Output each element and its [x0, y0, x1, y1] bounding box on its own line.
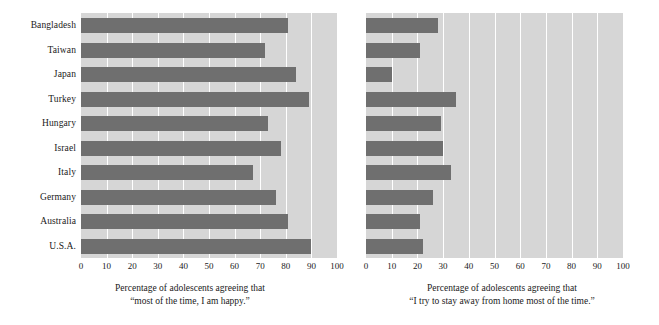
chart-panel-happy: BangladeshTaiwanJapanTurkeyHungaryIsrael… — [0, 0, 352, 325]
bar — [366, 165, 451, 180]
bar — [366, 92, 456, 107]
x-tick-label: 50 — [490, 261, 499, 272]
x-tick-label: 100 — [616, 261, 630, 272]
bar-row — [366, 62, 623, 87]
bar — [81, 165, 253, 180]
bar-row — [366, 38, 623, 63]
bar — [366, 239, 423, 254]
category-label: Germany — [0, 192, 76, 202]
plot-area-stay-away — [366, 13, 623, 258]
bar-row — [366, 234, 623, 259]
x-tick-label: 100 — [330, 261, 344, 272]
x-tick-label: 40 — [179, 261, 188, 272]
bar-chart-figure: BangladeshTaiwanJapanTurkeyHungaryIsrael… — [0, 0, 659, 325]
bar-row — [81, 136, 337, 161]
x-tick-label: 60 — [230, 261, 239, 272]
x-axis-label-stay-away: Percentage of adolescents agreeing that … — [352, 282, 652, 308]
category-label: Bangladesh — [0, 20, 76, 30]
bar — [81, 92, 309, 107]
category-axis-labels: BangladeshTaiwanJapanTurkeyHungaryIsrael… — [0, 13, 76, 258]
x-axis-label-stay-away-line1: Percentage of adolescents agreeing that — [427, 283, 577, 293]
chart-panel-stay-away: 0102030405060708090100 Percentage of ado… — [352, 0, 659, 325]
bar — [81, 239, 311, 254]
bar-row — [366, 160, 623, 185]
x-tick-label: 0 — [79, 261, 84, 272]
bar — [366, 43, 420, 58]
bars-stay-away — [366, 13, 623, 258]
bar-row — [81, 234, 337, 259]
bar — [81, 18, 288, 33]
x-tick-label: 30 — [439, 261, 448, 272]
bar-row — [81, 87, 337, 112]
bar — [81, 67, 296, 82]
x-tick-label: 30 — [153, 261, 162, 272]
category-label: Israel — [0, 143, 76, 153]
x-axis-label-happy-line2: “most of the time, I am happy.” — [40, 295, 340, 308]
bar — [366, 116, 441, 131]
category-label: Taiwan — [0, 45, 76, 55]
bar — [366, 67, 392, 82]
bar — [366, 141, 443, 156]
x-tick-label: 10 — [102, 261, 111, 272]
x-axis-label-stay-away-line2: “I try to stay away from home most of th… — [352, 295, 652, 308]
bar — [81, 214, 288, 229]
x-tick-label: 40 — [464, 261, 473, 272]
x-tick-label: 20 — [413, 261, 422, 272]
x-axis-label-happy: Percentage of adolescents agreeing that … — [40, 282, 340, 308]
x-tick-label: 60 — [516, 261, 525, 272]
x-axis-stay-away: 0102030405060708090100 — [366, 259, 623, 275]
category-label: Hungary — [0, 118, 76, 128]
category-label: Italy — [0, 167, 76, 177]
x-axis-happy: 0102030405060708090100 — [81, 259, 337, 275]
gridline — [337, 13, 338, 258]
bar-row — [366, 13, 623, 38]
category-label: Turkey — [0, 94, 76, 104]
bar-row — [366, 136, 623, 161]
x-tick-label: 50 — [205, 261, 214, 272]
bar — [366, 18, 438, 33]
x-tick-label: 10 — [387, 261, 396, 272]
bar-row — [81, 38, 337, 63]
x-tick-label: 80 — [281, 261, 290, 272]
x-tick-label: 90 — [307, 261, 316, 272]
bar-row — [81, 13, 337, 38]
category-label: Australia — [0, 216, 76, 226]
bar — [81, 43, 265, 58]
bar — [366, 214, 420, 229]
bar-row — [81, 111, 337, 136]
bar — [81, 190, 276, 205]
bar-row — [366, 185, 623, 210]
bar — [366, 190, 433, 205]
bar — [81, 141, 281, 156]
plot-area-happy — [81, 13, 337, 258]
category-label: U.S.A. — [0, 241, 76, 251]
bar-row — [366, 209, 623, 234]
bar-row — [81, 62, 337, 87]
x-tick-label: 80 — [567, 261, 576, 272]
bar-row — [81, 185, 337, 210]
bar-row — [81, 160, 337, 185]
x-axis-label-happy-line1: Percentage of adolescents agreeing that — [115, 283, 265, 293]
category-label: Japan — [0, 69, 76, 79]
x-tick-label: 90 — [593, 261, 602, 272]
x-tick-label: 70 — [256, 261, 265, 272]
bar-row — [81, 209, 337, 234]
bar-row — [366, 111, 623, 136]
x-tick-label: 70 — [541, 261, 550, 272]
bars-happy — [81, 13, 337, 258]
bar — [81, 116, 268, 131]
x-tick-label: 0 — [364, 261, 369, 272]
bar-row — [366, 87, 623, 112]
x-tick-label: 20 — [128, 261, 137, 272]
gridline — [623, 13, 624, 258]
